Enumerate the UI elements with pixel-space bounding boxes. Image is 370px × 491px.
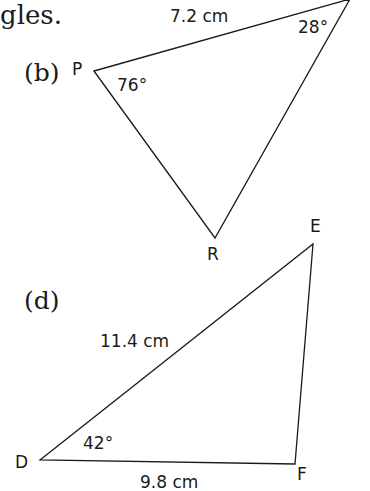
angle-p-value: 76°	[117, 77, 147, 94]
vertex-f-label: F	[297, 466, 307, 483]
vertex-d-label: D	[15, 454, 28, 471]
side-de-length: 11.4 cm	[100, 333, 169, 350]
vertex-p-label: P	[72, 61, 82, 78]
vertex-e-label: E	[310, 218, 321, 235]
vertex-r-label: R	[207, 246, 219, 263]
heading-fragment: gles.	[0, 2, 62, 28]
side-df-length: 9.8 cm	[140, 474, 198, 491]
part-d-label: (d)	[24, 288, 60, 313]
part-b-label: (b)	[24, 60, 60, 85]
angle-d-value: 42°	[83, 435, 113, 452]
triangle-d	[40, 244, 313, 464]
angle-top-value: 28°	[298, 19, 328, 36]
side-pq-length: 7.2 cm	[170, 8, 228, 25]
